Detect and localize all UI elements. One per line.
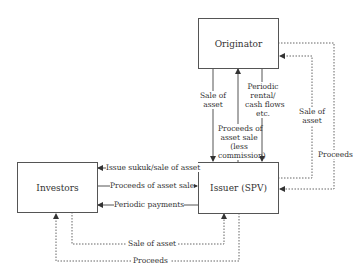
label-line: asset xyxy=(199,100,227,109)
flow-label-periodic-payments: Periodic payments xyxy=(114,200,184,209)
flow-label-bottom-proceeds: Proceeds xyxy=(131,256,170,265)
label-line: Sale of xyxy=(299,107,325,116)
label-line: rental/ xyxy=(245,91,281,100)
flow-label-bottom-sale-of-asset: Sale of asset xyxy=(126,239,178,248)
label-line: (less xyxy=(218,142,260,151)
label-line: commission) xyxy=(218,151,260,160)
label-line: Proceeds of xyxy=(218,124,260,133)
issuer-label: Issuer (SPV) xyxy=(210,183,267,193)
label-line: Periodic xyxy=(245,82,281,91)
label-line: cash flows xyxy=(245,100,281,109)
flow-label-proceeds-asset-sale: Proceeds of asset sale xyxy=(110,181,194,190)
originator-label: Originator xyxy=(215,39,263,49)
flow-label-proceeds-less-commission: Proceeds of asset sale (less commission) xyxy=(218,124,260,160)
label-line: asset sale xyxy=(218,133,260,142)
flow-label-right-proceeds: Proceeds xyxy=(318,150,353,159)
investors-label: Investors xyxy=(36,183,78,193)
flow-label-periodic-rental: Periodic rental/ cash flows etc. xyxy=(245,82,281,118)
flow-label-right-sale-of-asset: Sale of asset xyxy=(299,107,325,125)
flow-label-issue-sukuk: Issue sukuk/sale of asset xyxy=(106,163,200,172)
originator-node: Originator xyxy=(198,18,279,69)
issuer-node: Issuer (SPV) xyxy=(198,162,279,214)
investors-node: Investors xyxy=(17,162,98,213)
label-line: asset xyxy=(299,116,325,125)
label-line: etc. xyxy=(245,109,281,118)
flow-lines xyxy=(0,0,362,276)
flow-label-sale-of-asset: Sale of asset xyxy=(199,91,227,109)
label-line: Sale of xyxy=(199,91,227,100)
